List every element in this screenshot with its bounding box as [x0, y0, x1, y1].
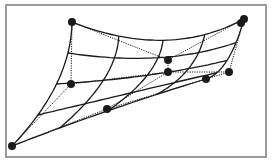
control-point-p02b	[237, 19, 245, 27]
control-points	[8, 15, 248, 150]
mesh-u-line	[72, 19, 244, 40]
bezier-surface-figure	[0, 0, 273, 163]
control-point-p01	[164, 56, 172, 64]
control-point-p11	[164, 68, 172, 76]
mesh-u-line	[12, 79, 206, 146]
control-point-p00	[68, 18, 76, 26]
control-point-p10	[67, 80, 75, 88]
control-point-p21	[103, 105, 111, 113]
control-point-p20	[8, 142, 16, 150]
mesh-u-line	[38, 73, 217, 115]
control-point-p22	[202, 75, 210, 83]
control-point-p12	[225, 68, 233, 76]
surface-diagram	[0, 0, 273, 163]
mesh-u-line	[68, 43, 236, 59]
control-polygon-edge	[107, 72, 168, 109]
